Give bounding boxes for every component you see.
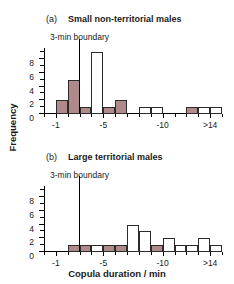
x-tick-major	[56, 252, 57, 256]
x-tick-minor	[44, 114, 45, 117]
x-tick-minor	[139, 114, 140, 117]
figure-histogram-pair: Frequency (a) Small non-territorial male…	[0, 0, 234, 284]
histogram-bar	[91, 245, 103, 252]
histogram-bar	[210, 107, 222, 114]
x-tick-major	[210, 252, 211, 256]
histogram-bar	[68, 80, 80, 114]
histogram-bar	[210, 245, 222, 252]
histogram-bar	[80, 245, 92, 252]
histogram-bar	[56, 100, 68, 114]
x-tick-minor	[91, 252, 92, 255]
panel-a-tag: (a)	[46, 14, 57, 24]
x-tick-minor	[151, 114, 152, 117]
y-tick-label: 4	[29, 229, 34, 230]
histogram-bar	[139, 231, 151, 252]
x-tick-minor	[151, 252, 152, 255]
x-tick-label: -10	[157, 258, 169, 268]
x-tick-major	[56, 114, 57, 118]
panel-b-tag: (b)	[46, 152, 57, 162]
y-tick-minor	[40, 244, 44, 245]
x-tick-minor	[222, 114, 223, 117]
x-tick-label: -5	[100, 120, 108, 130]
three-min-boundary-line	[79, 176, 81, 252]
x-tick-minor	[139, 252, 140, 255]
histogram-bar	[115, 100, 127, 114]
y-axis-line-b	[44, 186, 45, 252]
y-tick-minor	[40, 230, 44, 231]
histogram-bar	[151, 245, 163, 252]
plot-area-a: 02468-1-5-10>14	[44, 48, 222, 114]
y-tick-label: 0	[29, 256, 34, 257]
x-tick-minor	[127, 252, 128, 255]
panel-b-title: Large territorial males	[68, 152, 163, 162]
x-axis-title: Copula duration / min	[0, 268, 234, 279]
x-tick-label: -1	[52, 120, 60, 130]
x-tick-major	[103, 252, 104, 256]
y-tick-label: 2	[29, 242, 34, 243]
x-tick-minor	[222, 252, 223, 255]
y-tick-major: 8	[39, 58, 44, 59]
y-tick-label: 8	[29, 201, 34, 202]
x-tick-label: >14	[203, 120, 217, 130]
histogram-bar	[186, 245, 198, 252]
y-tick-minor	[40, 189, 44, 190]
y-tick-major: 6	[39, 210, 44, 211]
histogram-bar	[198, 107, 210, 114]
y-tick-major: 2	[39, 237, 44, 238]
x-tick-major	[163, 114, 164, 118]
y-axis-line-a	[44, 48, 45, 114]
y-tick-label: 6	[29, 77, 34, 78]
x-tick-label: -10	[157, 120, 169, 130]
plot-area-b: 02468-1-5-10>14	[44, 186, 222, 252]
y-tick-major: 4	[39, 224, 44, 225]
histogram-bar	[68, 245, 80, 252]
histogram-bar	[103, 245, 115, 252]
x-tick-minor	[175, 252, 176, 255]
x-tick-major	[163, 252, 164, 256]
y-tick-label: 2	[29, 104, 34, 105]
x-tick-minor	[91, 114, 92, 117]
x-tick-minor	[186, 252, 187, 255]
histogram-bar	[103, 107, 115, 114]
y-tick-major: 8	[39, 196, 44, 197]
three-min-boundary-line	[79, 39, 81, 114]
y-tick-major: 2	[39, 99, 44, 100]
x-tick-minor	[68, 114, 69, 117]
y-tick-minor	[40, 79, 44, 80]
y-tick-minor	[40, 92, 44, 93]
x-tick-minor	[186, 114, 187, 117]
y-tick-minor	[40, 203, 44, 204]
x-tick-label: >14	[203, 258, 217, 268]
histogram-bar	[139, 107, 151, 114]
x-tick-minor	[44, 252, 45, 255]
y-tick-label: 6	[29, 215, 34, 216]
y-tick-label: 4	[29, 91, 34, 92]
y-tick-minor	[40, 65, 44, 66]
histogram-bar	[198, 238, 210, 252]
x-tick-minor	[68, 252, 69, 255]
x-tick-minor	[115, 252, 116, 255]
y-tick-minor	[40, 217, 44, 218]
histogram-bar	[127, 225, 139, 253]
histogram-bar	[151, 107, 163, 114]
y-tick-major: 6	[39, 72, 44, 73]
y-tick-major: 4	[39, 86, 44, 87]
x-tick-major	[103, 114, 104, 118]
histogram-bar	[163, 238, 175, 252]
y-tick-label: 8	[29, 63, 34, 64]
x-tick-minor	[198, 114, 199, 117]
x-tick-label: -1	[52, 258, 60, 268]
x-tick-major	[210, 114, 211, 118]
panel-a-title: Small non-territorial males	[68, 14, 182, 24]
y-tick-minor	[40, 51, 44, 52]
histogram-bar	[80, 107, 92, 114]
histogram-bar	[175, 245, 187, 252]
histogram-bar	[91, 52, 103, 114]
x-tick-minor	[198, 252, 199, 255]
histogram-bar	[186, 107, 198, 114]
x-tick-label: -5	[100, 258, 108, 268]
x-tick-minor	[175, 114, 176, 117]
histogram-bar	[115, 245, 127, 252]
x-tick-minor	[80, 252, 81, 255]
x-tick-minor	[127, 114, 128, 117]
